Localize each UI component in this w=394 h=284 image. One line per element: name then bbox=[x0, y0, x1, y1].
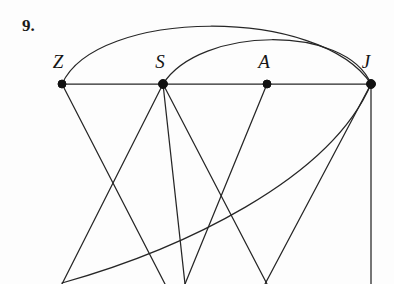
vertex-z[interactable] bbox=[58, 80, 66, 88]
vertex-a[interactable] bbox=[263, 80, 271, 88]
vertex-labels-group: ZSAJ bbox=[53, 51, 372, 72]
vertex-label-j: J bbox=[362, 51, 372, 72]
graph-diagram: ZSAJ bbox=[0, 0, 394, 284]
edges-group bbox=[62, 26, 371, 284]
vertex-label-a: A bbox=[256, 51, 270, 72]
edge-j-curve-down bbox=[62, 84, 371, 283]
edge-z-j-arc bbox=[62, 26, 371, 84]
vertex-j[interactable] bbox=[367, 80, 376, 89]
vertex-label-z: Z bbox=[53, 51, 64, 72]
edge-s-down-midleft bbox=[163, 84, 185, 284]
edge-s-down-right bbox=[163, 84, 267, 284]
edge-a-down bbox=[185, 84, 267, 284]
vertex-s[interactable] bbox=[159, 80, 168, 89]
figure-root: 9. ZSAJ bbox=[0, 0, 394, 284]
vertex-label-s: S bbox=[155, 51, 165, 72]
